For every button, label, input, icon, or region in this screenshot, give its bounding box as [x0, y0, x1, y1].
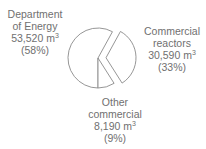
label-doe-percent: (58%) [2, 44, 68, 56]
label-doe-value: 53,520 m3 [2, 32, 68, 44]
label-reactors-line1: Commercial [138, 25, 206, 37]
label-doe-line1: Department [2, 8, 68, 20]
label-other-percent: (9%) [80, 132, 150, 144]
label-other-commercial: Other commercial 8,190 m3 (9%) [80, 96, 150, 144]
label-other-value: 8,190 m3 [80, 120, 150, 132]
slice-commercial-reactors [106, 31, 136, 83]
label-department-of-energy: Department of Energy 53,520 m3 (58%) [2, 8, 68, 56]
label-other-line2: commercial [80, 108, 150, 120]
label-other-line1: Other [80, 96, 150, 108]
pie-chart: Department of Energy 53,520 m3 (58%) Com… [0, 0, 206, 149]
label-commercial-reactors: Commercial reactors 30,590 m3 (33%) [138, 25, 206, 73]
label-reactors-percent: (33%) [138, 61, 206, 73]
label-doe-line2: of Energy [2, 20, 68, 32]
label-reactors-value: 30,590 m3 [138, 49, 206, 61]
label-reactors-line2: reactors [138, 37, 206, 49]
